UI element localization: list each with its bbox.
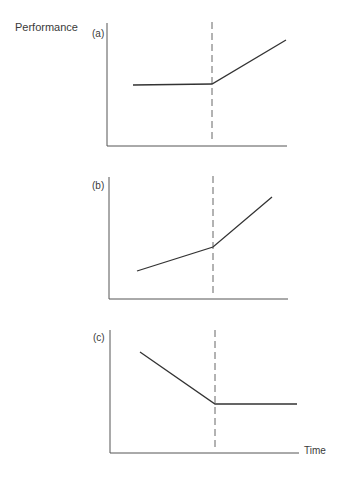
panel-c-label: (c) (93, 332, 105, 343)
panel-a-label: (a) (92, 28, 104, 39)
panel-c: (c) Time (93, 330, 326, 456)
figure-canvas: Performance (a) (b) (c) Time (0, 0, 339, 477)
panel-b-label: (b) (92, 180, 104, 191)
panel-b: (b) (92, 176, 288, 299)
panel-a: (a) (92, 22, 287, 146)
panel-c-series (140, 352, 297, 404)
panel-a-series (133, 40, 286, 85)
y-axis-label: Performance (15, 21, 78, 33)
panel-b-series (137, 197, 272, 271)
x-axis-label: Time (304, 445, 326, 456)
